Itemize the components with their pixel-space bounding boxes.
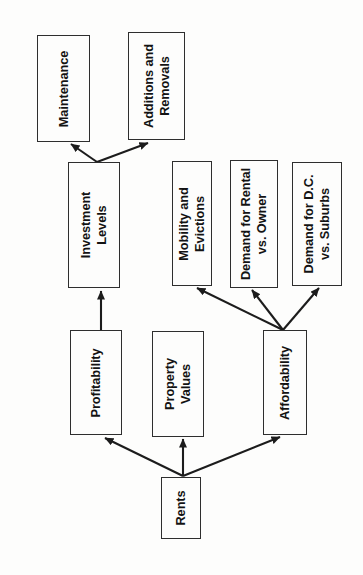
diagram-page: Maintenance Additions and Removals Inves… (0, 0, 363, 575)
node-maintenance-label: Maintenance (56, 50, 72, 126)
edge-rents-to-affordability (183, 437, 280, 476)
node-maintenance: Maintenance (37, 35, 90, 142)
node-demand-for-dc-vs-suburbs: Demand for D.C. vs. Suburbs (292, 162, 342, 286)
node-additions-and-removals-label: Additions and Removals (141, 44, 172, 128)
node-profitability: Profitability (70, 330, 122, 435)
node-investment-levels-label: Investment Levels (78, 192, 109, 259)
node-property-values-label: Property Values (162, 358, 193, 410)
edge-rents-to-profitability (105, 438, 183, 476)
node-mobility-and-evictions: Mobility and Evictions (172, 161, 212, 286)
node-affordability-label: Affordability (277, 345, 293, 419)
edge-affordability-to-demand-for-rental-vs-owner (252, 290, 283, 330)
edge-affordability-to-mobility-and-evictions (197, 288, 283, 330)
node-demand-for-rental-vs-owner: Demand for Rental vs. Owner (230, 160, 278, 288)
edge-investment-levels-to-additions-and-removals (97, 143, 148, 162)
node-property-values: Property Values (152, 331, 204, 437)
node-rents-label: Rents (173, 490, 189, 525)
edge-affordability-to-demand-for-dc-vs-suburbs (283, 288, 319, 330)
node-additions-and-removals: Additions and Removals (128, 32, 185, 140)
edge-investment-levels-to-maintenance (71, 144, 97, 162)
node-investment-levels: Investment Levels (68, 162, 120, 288)
node-demand-for-rental-vs-owner-label: Demand for Rental vs. Owner (238, 168, 269, 280)
node-demand-for-dc-vs-suburbs-label: Demand for D.C. vs. Suburbs (301, 175, 332, 274)
node-affordability: Affordability (263, 330, 307, 435)
node-profitability-label: Profitability (88, 348, 104, 417)
node-rents: Rents (161, 477, 201, 539)
node-mobility-and-evictions-label: Mobility and Evictions (176, 187, 207, 260)
